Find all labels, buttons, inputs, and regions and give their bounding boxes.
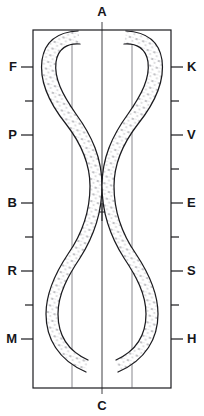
- diagram-stage: A C: [0, 0, 204, 416]
- technical-diagram: A C: [0, 0, 204, 416]
- left-scale-label-4: B: [8, 195, 17, 210]
- right-scale-label-4: E: [187, 195, 196, 210]
- axis-bottom-label: C: [97, 398, 107, 413]
- left-scale-label-0: F: [9, 59, 17, 74]
- right-scale-label-2: V: [187, 127, 196, 142]
- right-scale-label-0: K: [187, 59, 197, 74]
- axis-top-label: A: [97, 4, 107, 19]
- left-scale-label-6: R: [8, 263, 18, 278]
- right-scale-label-6: S: [187, 263, 196, 278]
- right-scale-label-8: H: [187, 331, 196, 346]
- left-scale-label-8: M: [6, 331, 17, 346]
- left-scale-label-2: P: [8, 127, 17, 142]
